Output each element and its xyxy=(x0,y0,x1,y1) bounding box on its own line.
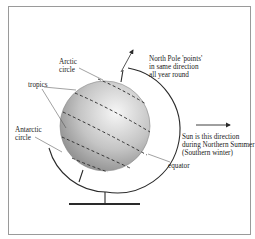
label-sun-direction: Sun is this direction during Northern Su… xyxy=(182,133,255,157)
tropics-leader-2 xyxy=(42,89,66,128)
arctic-leader xyxy=(79,68,103,80)
tropics-leader-1 xyxy=(44,87,76,90)
label-tropics: tropics xyxy=(28,81,48,89)
globe xyxy=(60,81,150,171)
label-equator: equator xyxy=(168,162,190,170)
globe-diagram xyxy=(0,0,255,239)
south-axis-peg xyxy=(79,170,83,182)
equator-leader xyxy=(148,154,170,162)
label-arctic-circle: Arctic circle xyxy=(59,58,77,74)
label-antarctic-circle: Antarctic circle xyxy=(15,126,42,142)
label-north-pole: North Pole 'points' in same direction al… xyxy=(149,55,202,79)
